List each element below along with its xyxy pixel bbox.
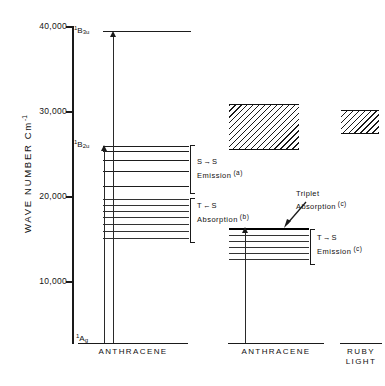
t-s-emission-arrow: → [322, 233, 332, 242]
level-absorption-4 [103, 217, 189, 218]
level-absorption-7 [103, 238, 189, 239]
level-t-s-emission-3 [229, 247, 309, 248]
y-axis-tick-10000 [66, 281, 73, 283]
y-axis-tick-label-40000: 40,000 [21, 21, 67, 31]
level-t-s-emission-4 [229, 253, 309, 254]
s-s-emission-from: S [197, 157, 203, 166]
s-s-emission-note: (a) [231, 169, 242, 176]
t-s-emission-to: S [332, 233, 338, 242]
level-t-s-emission-1 [229, 235, 309, 236]
y-axis-tick-label-10000: 10,000 [21, 276, 67, 286]
state-label-b2u: 1B2u [74, 139, 89, 149]
arrow-shaft-ground-to-b3u [113, 37, 114, 343]
level-b3u [103, 31, 191, 32]
level-absorption-5 [103, 224, 189, 225]
arrow-head-ground-to-triplet [242, 227, 248, 233]
level-emission-5 [103, 186, 189, 187]
level-t-s-emission-2 [229, 241, 309, 242]
state-b2u-sub: 2u [83, 143, 90, 149]
band-anthracene-triplet [229, 104, 299, 150]
state-b3u-sub: 3u [83, 29, 90, 35]
y-axis-line [72, 26, 74, 344]
y-axis-title-text: WAVE NUMBER Cm [22, 121, 33, 233]
y-axis-tick-40000 [66, 26, 73, 28]
brace-t-s-absorption [190, 198, 195, 243]
t-s-emission-kind: Emission [317, 247, 351, 256]
level-absorption-2 [103, 205, 189, 206]
arrow-head-ground-to-b2u [101, 145, 107, 151]
brace-s-s-emission [190, 145, 195, 194]
state-label-b3u: 1B3u [74, 25, 89, 35]
y-axis-tick-20000 [66, 196, 73, 198]
energy-level-diagram: WAVE NUMBER Cm-1 40,000 30,000 20,000 10… [0, 0, 385, 386]
band-ruby-light [341, 110, 379, 134]
label-t-s-absorption: T←S Absorption(b) [197, 200, 249, 225]
baseline-anthracene-right [228, 343, 324, 344]
s-s-emission-to: S [212, 157, 218, 166]
t-s-absorption-arrow: ← [202, 201, 212, 210]
level-emission-4 [103, 171, 189, 172]
level-emission-1 [103, 146, 189, 147]
label-t-s-emission: T→S Emission(c) [317, 232, 363, 257]
callout-arrow-icon [282, 200, 308, 230]
label-t-s-emission-line2: Emission(c) [317, 243, 363, 257]
state-ag-sub: g [85, 337, 88, 343]
s-s-emission-arrow: → [203, 157, 213, 166]
y-axis-tick-label-20000: 20,000 [21, 191, 67, 201]
s-s-emission-kind: Emission [197, 171, 231, 180]
state-label-ag: 1Ag [76, 333, 88, 343]
callout-triplet-absorption-note: (c) [336, 200, 347, 207]
column-caption-anthracene-left: ANTHRACENE [78, 347, 188, 357]
baseline-ruby-light [340, 343, 382, 344]
column-caption-ruby-light: RUBY LIGHT [336, 347, 385, 367]
label-s-s-emission-line1: S→S [197, 156, 243, 167]
callout-triplet-absorption-line1: Triplet [296, 189, 347, 199]
level-absorption-1 [103, 199, 189, 200]
t-s-absorption-to: S [212, 201, 218, 210]
label-s-s-emission: S→S Emission(a) [197, 156, 243, 181]
t-s-absorption-note: (b) [238, 213, 249, 220]
label-t-s-absorption-line1: T←S [197, 200, 249, 211]
level-emission-2 [103, 151, 189, 152]
y-axis-tick-label-30000: 30,000 [21, 106, 67, 116]
label-t-s-absorption-line2: Absorption(b) [197, 211, 249, 225]
level-absorption-6 [103, 231, 189, 232]
column-caption-ruby-light-line2: LIGHT [336, 357, 385, 367]
arrow-shaft-ground-to-triplet [245, 233, 246, 343]
t-s-emission-note: (c) [351, 245, 362, 252]
baseline-anthracene-left [78, 343, 188, 344]
column-caption-ruby-light-line1: RUBY [336, 347, 385, 357]
y-axis-title-exponent: -1 [21, 115, 28, 121]
t-s-absorption-kind: Absorption [197, 215, 238, 224]
y-axis-tick-30000 [66, 111, 73, 113]
label-t-s-emission-line1: T→S [317, 232, 363, 243]
level-t-s-emission-5 [229, 259, 309, 260]
level-absorption-3 [103, 211, 189, 212]
brace-t-s-emission [310, 229, 315, 265]
column-caption-anthracene-right: ANTHRACENE [228, 347, 324, 357]
label-s-s-emission-line2: Emission(a) [197, 167, 243, 181]
arrow-shaft-ground-to-b2u [104, 151, 105, 343]
level-emission-3 [103, 160, 189, 161]
arrow-head-ground-to-b3u [110, 31, 116, 37]
